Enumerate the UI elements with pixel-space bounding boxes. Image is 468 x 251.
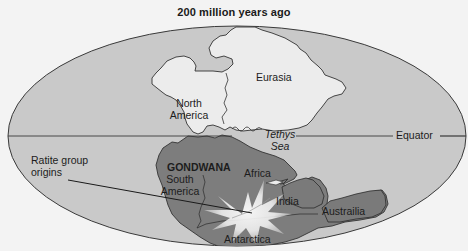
label-africa: Africa: [244, 167, 271, 179]
map-title: 200 million years ago: [0, 6, 468, 18]
label-tethys-line2: Sea: [262, 140, 298, 152]
label-south-america-line1: South: [158, 173, 202, 185]
label-gondwana: GONDWANA: [167, 161, 231, 173]
label-eurasia: Eurasia: [256, 71, 292, 83]
label-equator: Equator: [396, 129, 433, 141]
world-map: [0, 0, 468, 251]
label-south-america: South America: [158, 173, 202, 197]
label-ratite-line2: origins: [31, 166, 88, 178]
label-north-america-line2: America: [162, 109, 216, 121]
label-north-america: North America: [162, 97, 216, 121]
label-south-america-line2: America: [158, 185, 202, 197]
label-tethys-sea: Tethys Sea: [262, 128, 298, 152]
label-antarctica: Antarctica: [224, 233, 271, 245]
label-australia: Austrailia: [322, 205, 365, 217]
label-india: India: [276, 195, 299, 207]
label-north-america-line1: North: [162, 97, 216, 109]
map-figure: 200 million years ago North America Eura…: [0, 0, 468, 251]
label-ratite-origins: Ratite group origins: [31, 154, 88, 178]
label-ratite-line1: Ratite group: [31, 154, 88, 166]
label-tethys-line1: Tethys: [262, 128, 298, 140]
